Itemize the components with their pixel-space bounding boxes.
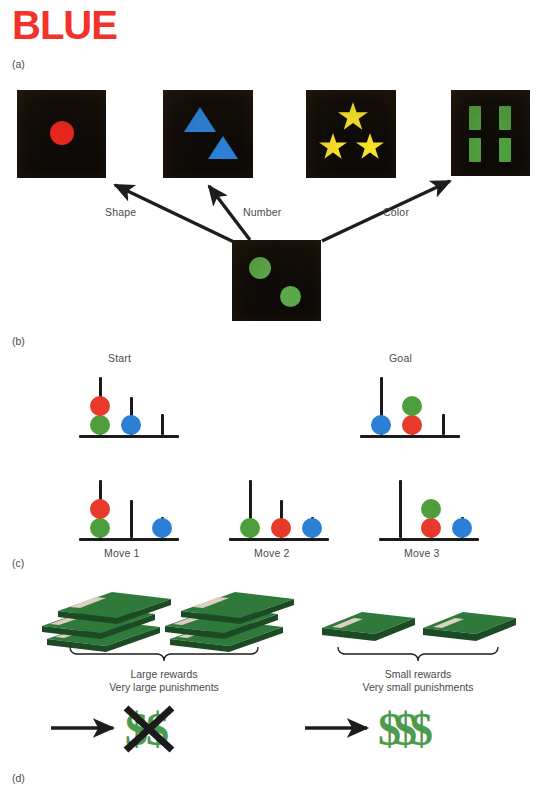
caption-small-line-1: Small rewards: [318, 668, 518, 681]
tol-ball-blue[interactable]: [371, 415, 391, 435]
tol-peg-2[interactable]: [130, 500, 133, 538]
tol-state-move-1: [79, 476, 179, 542]
panel-a-arrows: [0, 0, 537, 340]
tol-ball-red[interactable]: [402, 415, 422, 435]
brace-small-rewards: [338, 647, 498, 661]
panel-letter-c: (c): [12, 557, 24, 569]
panel-letter-d: (d): [12, 772, 25, 784]
tol-ball-red[interactable]: [421, 518, 441, 538]
tol-peg-3[interactable]: [442, 414, 445, 435]
tol-ball-blue[interactable]: [302, 518, 322, 538]
money-deck-large-1[interactable]: [42, 592, 171, 652]
tol-ball-green[interactable]: [421, 499, 441, 519]
arrow-label-shape: Shape: [105, 206, 136, 218]
tol-ball-green[interactable]: [240, 518, 260, 538]
tol-label-move-3: Move 3: [404, 547, 440, 559]
tol-ball-green[interactable]: [402, 396, 422, 416]
tol-base: [79, 538, 179, 541]
brace-large-rewards: [70, 647, 258, 661]
tol-state-move-2: [229, 476, 329, 542]
arrow-label-number: Number: [243, 206, 282, 218]
money-deck-small-1[interactable]: [322, 612, 415, 641]
tol-ball-red[interactable]: [90, 396, 110, 416]
tol-base: [379, 538, 479, 541]
tol-base: [229, 538, 329, 541]
tol-ball-green[interactable]: [90, 518, 110, 538]
arrow-label-color: Color: [383, 206, 409, 218]
caption-small-rewards: Small rewards Very small punishments: [318, 668, 518, 694]
tol-state-start: [79, 373, 179, 439]
svg-text:$: $: [410, 704, 433, 755]
tol-ball-red[interactable]: [271, 518, 291, 538]
tol-ball-blue[interactable]: [452, 518, 472, 538]
panel-letter-b: (b): [12, 335, 25, 347]
tol-label-start: Start: [108, 352, 131, 364]
caption-large-rewards: Large rewards Very large punishments: [64, 668, 264, 694]
tol-base: [79, 435, 179, 438]
caption-large-line-1: Large rewards: [64, 668, 264, 681]
tol-ball-red[interactable]: [90, 499, 110, 519]
tol-state-goal: [360, 373, 460, 439]
tol-peg-1[interactable]: [399, 480, 402, 538]
money-deck-large-2[interactable]: [165, 592, 294, 652]
caption-large-line-2: Very large punishments: [64, 681, 264, 694]
figure-canvas: BLUE (a) Shape Number: [0, 0, 537, 793]
dollar-signs-small: $ $ $: [378, 704, 433, 755]
tol-ball-blue[interactable]: [121, 415, 141, 435]
outcome-row: $ $ $ $ $: [0, 700, 537, 770]
tol-peg-3[interactable]: [161, 414, 164, 435]
caption-small-line-2: Very small punishments: [318, 681, 518, 694]
tol-label-move-2: Move 2: [254, 547, 290, 559]
tol-ball-green[interactable]: [90, 415, 110, 435]
tol-ball-blue[interactable]: [152, 518, 172, 538]
tol-label-move-1: Move 1: [104, 547, 140, 559]
tol-base: [360, 435, 460, 438]
tol-label-goal: Goal: [389, 352, 412, 364]
money-deck-small-2[interactable]: [423, 612, 516, 641]
tol-state-move-3: [379, 476, 479, 542]
